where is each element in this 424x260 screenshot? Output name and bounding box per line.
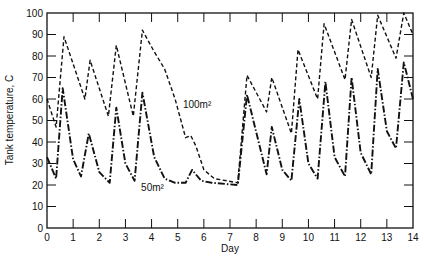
x-tick-label: 8 [253,232,259,243]
x-tick-label: 0 [44,232,50,243]
x-tick-label: 6 [201,232,207,243]
y-tick-label: 20 [32,180,44,191]
x-tick-label: 1 [70,232,76,243]
x-ticks: 01234567891011121314 [44,13,419,243]
x-tick-label: 2 [97,232,103,243]
y-tick-label: 10 [32,201,44,212]
chart: 01234567891011121314 0102030405060708090… [0,0,424,260]
series-line-100m2 [47,13,413,183]
x-tick-label: 11 [329,232,340,243]
series-annotation: 100m² [183,99,212,110]
x-axis-title: Day [221,243,239,254]
x-tick-label: 3 [123,232,129,243]
y-tick-label: 80 [32,51,44,62]
x-tick-label: 10 [303,232,315,243]
y-tick-label: 0 [37,223,43,234]
y-tick-label: 40 [32,137,44,148]
series-annotation: 50m² [141,182,164,193]
axes [47,13,413,228]
y-tick-label: 30 [32,158,44,169]
y-tick-label: 50 [32,115,44,126]
y-tick-label: 60 [32,94,44,105]
y-tick-label: 90 [32,29,44,40]
x-tick-label: 13 [381,232,393,243]
y-ticks: 0102030405060708090100 [26,8,413,234]
plot-frame [47,13,413,228]
series-group [47,13,413,185]
y-axis-title: Tank temperature, C [4,75,15,166]
x-tick-label: 5 [175,232,181,243]
x-tick-label: 9 [280,232,286,243]
x-tick-label: 4 [149,232,155,243]
y-tick-label: 100 [26,8,43,19]
x-tick-label: 7 [227,232,233,243]
series-line-50m2 [47,62,413,185]
y-tick-label: 70 [32,72,44,83]
x-tick-label: 14 [407,232,419,243]
x-tick-label: 12 [355,232,367,243]
